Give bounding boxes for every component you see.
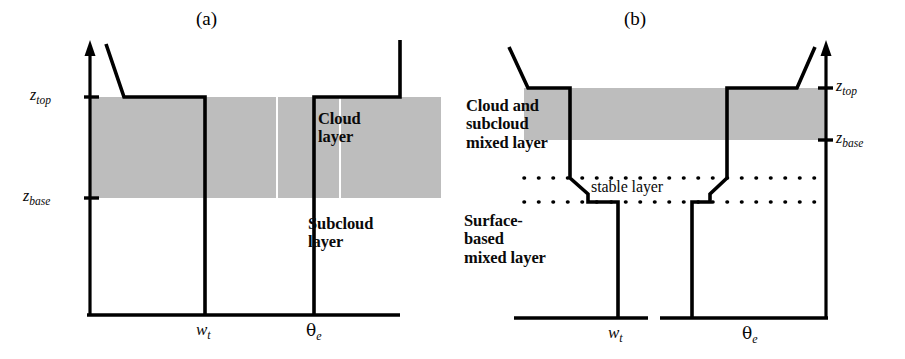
- theta-e-subscript: e: [316, 329, 321, 343]
- stable-layer-label: stable layer: [591, 178, 663, 196]
- panel-a-theta-e-axis-label: θe: [306, 320, 322, 344]
- panel-b-wt-axis-label: wt: [608, 323, 623, 346]
- theta-e-subscript-b: e: [752, 332, 757, 346]
- wt-subscript: t: [207, 328, 210, 342]
- panel-a: (a) ztop zbase: [0, 0, 452, 359]
- theta-symbol-b: θ: [742, 323, 752, 343]
- z-axis-arrowhead-b: [821, 40, 832, 56]
- surface-based-mixed-layer-label: Surface- based mixed layer: [464, 212, 546, 267]
- cloud-band-shade-right-b: [720, 88, 826, 140]
- cloud-and-subcloud-mixed-layer-label: Cloud and subcloud mixed layer: [466, 97, 548, 152]
- cloud-band-shade-mid-b: [588, 88, 720, 140]
- panel-b-z-top-label: ztop: [836, 77, 857, 97]
- z-base-subscript: base: [29, 195, 50, 207]
- panel-a-z-top-label: ztop: [30, 86, 51, 106]
- z-top-subscript: top: [36, 94, 51, 106]
- subcloud-layer-label: Subcloud layer: [308, 215, 373, 252]
- panel-b-plot: [452, 0, 905, 359]
- theta-symbol: θ: [306, 320, 316, 340]
- cloud-band-shade-left: [90, 97, 276, 198]
- z-base-subscript-b: base: [842, 137, 863, 149]
- panel-b-z-base-label: zbase: [836, 129, 863, 149]
- wt-subscript-b: t: [619, 331, 622, 345]
- theta-e-profile-line-b: [692, 47, 815, 318]
- wt-symbol: w: [196, 320, 207, 339]
- panel-a-z-base-label: zbase: [23, 187, 50, 207]
- panel-b-theta-e-axis-label: θe: [742, 323, 758, 347]
- wt-symbol-b: w: [608, 323, 619, 342]
- figure-root: (a) ztop zbase: [0, 0, 905, 359]
- z-axis-arrowhead: [85, 40, 96, 56]
- panel-b: (b) ztop: [452, 0, 905, 359]
- cloud-layer-label: Cloud layer: [318, 110, 361, 147]
- panel-a-plot: [0, 0, 452, 359]
- panel-a-wt-axis-label: wt: [196, 320, 211, 343]
- z-top-subscript-b: top: [842, 85, 857, 97]
